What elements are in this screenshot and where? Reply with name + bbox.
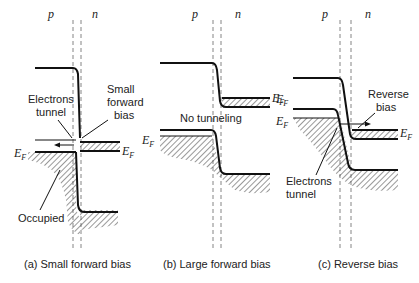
occupied-states-n <box>80 142 120 151</box>
fermi-label-left: EF <box>275 114 288 130</box>
panel-small-forward-bias: p n EF EF Electrons tunnel Small forward… <box>13 7 144 270</box>
electrons-tunnel-label: Electrons <box>286 175 332 187</box>
caption: (c) Reverse bias <box>318 258 399 270</box>
reverse-bias-label: Reverse <box>368 88 409 100</box>
occupied-label: Occupied <box>18 212 64 224</box>
fermi-label-top: EF <box>275 92 288 108</box>
valence-band-edge <box>76 152 118 212</box>
reverse-bias-label-2: bias <box>376 101 397 113</box>
electrons-tunnel-label: Electrons <box>28 93 74 105</box>
p-region-label: p <box>191 7 198 21</box>
n-region-label: n <box>92 7 98 21</box>
caption: (b) Large forward bias <box>163 258 271 270</box>
arrowhead-icon <box>54 143 60 148</box>
caption: (a) Small forward bias <box>24 258 131 270</box>
fermi-label-left: EF <box>141 133 154 149</box>
arrowhead-icon <box>365 122 371 127</box>
occupied-states-p <box>160 136 270 193</box>
fermi-label-right: EF <box>399 126 412 142</box>
p-region-label: p <box>321 7 328 21</box>
tunnel-diode-band-diagrams: p n EF EF Electrons tunnel Small forward… <box>0 0 419 283</box>
fermi-label-left: EF <box>13 146 26 162</box>
small-forward-bias-label: Small <box>107 83 135 95</box>
p-region-label: p <box>47 7 54 21</box>
panel-reverse-bias: p n EF EF EF Reverse bias Electrons tunn… <box>275 7 412 270</box>
n-region-label: n <box>235 7 241 21</box>
leader-line <box>82 120 108 138</box>
occupied-states-n <box>222 98 270 107</box>
panel-large-forward-bias: p n No tunneling EF EF (b) Large forward… <box>141 7 284 270</box>
n-region-label: n <box>365 7 371 21</box>
small-forward-bias-label-2: forward <box>107 96 144 108</box>
electrons-tunnel-label-2: tunnel <box>286 188 316 200</box>
leader-line <box>58 120 72 138</box>
no-tunneling-label: No tunneling <box>180 112 242 124</box>
leader-line <box>40 170 60 210</box>
fermi-label-right: EF <box>121 144 134 160</box>
electrons-tunnel-label-2: tunnel <box>36 106 66 118</box>
small-forward-bias-label-3: bias <box>114 109 135 121</box>
occupied-states-n <box>352 130 398 139</box>
